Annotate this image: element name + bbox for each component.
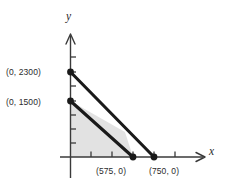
point-marker-x-intercept-high [151, 154, 158, 161]
point-marker-x-intercept-low [130, 154, 137, 161]
coordinate-plot [0, 0, 226, 190]
label-y-intercept-2300: (0, 2300) [6, 68, 41, 77]
point-marker-y-intercept-low [67, 98, 74, 105]
y-axis-label: y [66, 11, 71, 23]
label-x-intercept-750: (750, 0) [149, 167, 179, 176]
label-y-intercept-1500: (0, 1500) [6, 98, 41, 107]
x-axis-label: x [209, 146, 214, 158]
point-marker-y-intercept-high [67, 69, 74, 76]
graph-figure: (0, 2300) (0, 1500) (575, 0) (750, 0) y … [0, 0, 226, 190]
label-x-intercept-575: (575, 0) [96, 167, 126, 176]
